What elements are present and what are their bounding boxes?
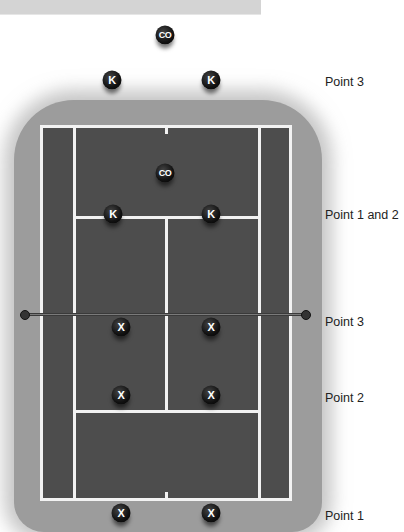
marker-k-service-left: K — [104, 205, 123, 224]
point-label: Point 3 — [325, 75, 364, 89]
marker-co-inside: CO — [156, 164, 175, 183]
left-net-post — [20, 310, 30, 320]
right-net-post — [301, 310, 311, 320]
top-bar — [0, 0, 261, 15]
marker-x-service-right: X — [202, 386, 221, 405]
point-label: Point 1 and 2 — [325, 208, 399, 222]
point-label: Point 1 — [325, 509, 364, 523]
point-label: Point 2 — [325, 391, 364, 405]
marker-k-service-right: K — [202, 205, 221, 224]
marker-co-outside: CO — [156, 26, 175, 45]
net — [24, 313, 306, 316]
marker-x-net-right: X — [202, 318, 221, 337]
marker-k-outside-right: K — [202, 71, 221, 90]
marker-x-net-left: X — [112, 318, 131, 337]
marker-x-baseline-right: X — [202, 504, 221, 523]
marker-k-outside-left: K — [103, 71, 122, 90]
bottom-center-mark — [165, 492, 168, 498]
top-center-mark — [165, 128, 168, 134]
marker-x-service-left: X — [112, 386, 131, 405]
point-label: Point 3 — [325, 315, 364, 329]
marker-x-baseline-left: X — [112, 504, 131, 523]
